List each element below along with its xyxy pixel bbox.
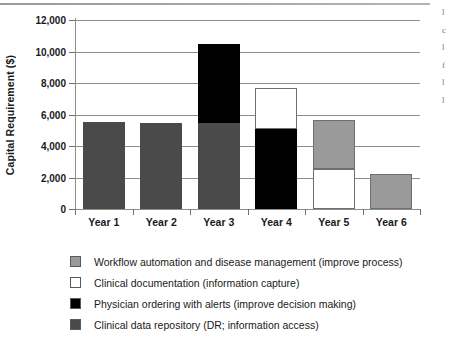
stacked-bar[interactable]	[255, 88, 297, 209]
bar-group	[75, 20, 420, 209]
legend-label: Clinical data repository (DR; informatio…	[94, 319, 319, 331]
bar-slot	[75, 20, 133, 209]
stacked-bar[interactable]	[313, 120, 355, 209]
x-axis-label: Year 6	[376, 216, 407, 228]
legend-label: Physician ordering with alerts (improve …	[94, 298, 356, 310]
bar-slot	[133, 20, 191, 209]
chart-legend: Workflow automation and disease manageme…	[70, 251, 455, 335]
x-axis-label: Year 2	[146, 216, 177, 228]
bar-slot	[305, 20, 363, 209]
margin-text-line: l	[439, 92, 455, 110]
x-axis-label: Year 4	[261, 216, 292, 228]
x-axis-ticks	[75, 209, 421, 216]
bar-slot	[248, 20, 306, 209]
y-axis-title: Capital Requirement ($)	[2, 28, 18, 203]
legend-item[interactable]: Workflow automation and disease manageme…	[70, 251, 455, 272]
y-axis-title-text: Capital Requirement ($)	[4, 55, 16, 175]
margin-text-line: l	[439, 4, 455, 22]
legend-label: Clinical documentation (information capt…	[94, 277, 299, 289]
x-axis-label: Year 5	[318, 216, 349, 228]
margin-text-line: l	[439, 74, 455, 92]
stacked-bar[interactable]	[198, 44, 240, 209]
x-axis-label: Year 1	[88, 216, 119, 228]
bar-segment[interactable]	[198, 44, 240, 124]
legend-swatch	[70, 298, 81, 309]
legend-swatch	[70, 319, 81, 330]
x-axis-tick	[133, 209, 134, 215]
x-axis-tick	[420, 209, 421, 215]
legend-item[interactable]: Clinical documentation (information capt…	[70, 272, 455, 293]
bar-segment[interactable]	[83, 122, 125, 209]
bar-slot	[190, 20, 248, 209]
bar-segment[interactable]	[313, 169, 355, 209]
x-axis-label: Year 3	[203, 216, 234, 228]
bar-segment[interactable]	[140, 123, 182, 209]
y-axis-tick-label: 2,000	[41, 172, 66, 183]
x-axis-tick	[190, 209, 191, 215]
bar-segment[interactable]	[255, 88, 297, 129]
bar-segment[interactable]	[370, 174, 412, 209]
y-axis-tick-label: 6,000	[41, 109, 66, 120]
x-axis-tick	[305, 209, 306, 215]
plot-area: 12,00010,0008,0006,0004,0002,0000	[75, 20, 420, 209]
legend-item[interactable]: Physician ordering with alerts (improve …	[70, 293, 455, 314]
stacked-bar[interactable]	[83, 122, 125, 209]
stacked-bar[interactable]	[140, 123, 182, 209]
x-axis-tick	[248, 209, 249, 215]
margin-text-line: c	[439, 22, 455, 40]
margin-text-line: f	[439, 57, 455, 75]
figure-page: lclfll Capital Requirement ($) 12,00010,…	[0, 0, 455, 340]
y-axis-tick-label: 4,000	[41, 141, 66, 152]
y-axis-tick-label: 8,000	[41, 78, 66, 89]
legend-label: Workflow automation and disease manageme…	[94, 256, 403, 268]
x-axis-labels: Year 1Year 2Year 3Year 4Year 5Year 6	[75, 216, 420, 238]
bar-segment[interactable]	[313, 120, 355, 169]
x-axis-tick	[363, 209, 364, 215]
x-axis-tick	[75, 209, 76, 215]
bar-slot	[363, 20, 421, 209]
margin-text-line: l	[439, 39, 455, 57]
y-axis-tick-label: 0	[60, 204, 66, 215]
y-axis-tick-label: 12,000	[35, 15, 66, 26]
cut-off-margin-text: lclfll	[439, 4, 455, 124]
bar-segment[interactable]	[198, 123, 240, 209]
stacked-bar-chart: Capital Requirement ($) 12,00010,0008,00…	[0, 0, 430, 246]
legend-item[interactable]: Clinical data repository (DR; informatio…	[70, 314, 455, 335]
legend-swatch	[70, 256, 81, 267]
y-axis-tick-label: 10,000	[35, 46, 66, 57]
bar-segment[interactable]	[255, 129, 297, 209]
stacked-bar[interactable]	[370, 174, 412, 209]
legend-swatch	[70, 277, 81, 288]
